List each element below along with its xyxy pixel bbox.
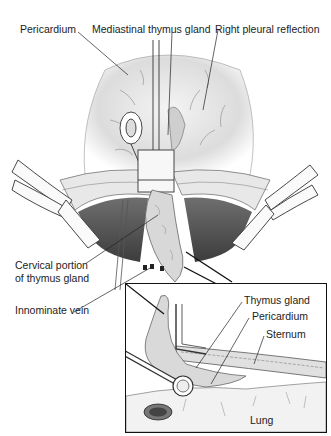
label-cervical-portion-line2: of thymus gland (15, 272, 89, 284)
inset-cross-section: Thymus gland Pericardium Sternum Lung (125, 283, 327, 433)
inset-label-lung: Lung (250, 414, 273, 426)
inset-label-sternum: Sternum (266, 328, 306, 340)
label-pericardium-top: Pericardium (20, 23, 76, 35)
label-mediastinal-thymus: Mediastinal thymus gland (92, 23, 210, 35)
label-innominate-vein: Innominate vein (15, 304, 89, 316)
inset-label-pericardium: Pericardium (252, 310, 308, 322)
label-cervical-portion-line1: Cervical portion (15, 259, 88, 271)
label-right-pleural-reflection: Right pleural reflection (215, 23, 319, 35)
inset-label-thymus-gland: Thymus gland (244, 294, 310, 306)
